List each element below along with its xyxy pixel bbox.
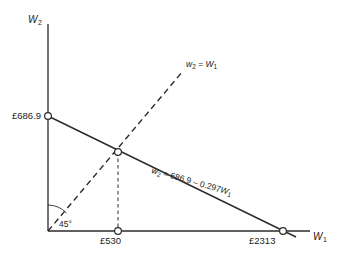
y-axis-label: W2 xyxy=(28,15,41,25)
forty-five-degree-ray-label: w2 = W1 xyxy=(186,60,217,69)
marker-intersection xyxy=(115,149,122,156)
plot-canvas xyxy=(0,0,340,261)
marker-x-tick-530 xyxy=(115,228,122,235)
marker-x-intercept xyxy=(280,228,287,235)
x-intercept-tick-label: £2313 xyxy=(249,236,275,246)
x-tick-530-label: £530 xyxy=(100,236,121,246)
angle-45-label: 45° xyxy=(59,220,72,229)
marker-y-intercept xyxy=(45,113,52,120)
x-axis-label: W1 xyxy=(313,232,326,242)
economics-budget-line-figure: W2 W1 £686.9 £530 £2313 45° w2 = W1 w2 =… xyxy=(0,0,340,261)
y-intercept-tick-label: £686.9 xyxy=(12,111,41,121)
